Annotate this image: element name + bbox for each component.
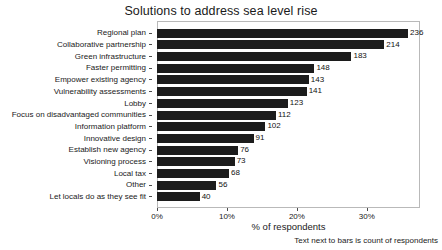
chart-root: Solutions to address sea level rise Regi… xyxy=(0,0,442,250)
bar-value-label: 183 xyxy=(353,50,366,62)
y-axis-tick-mark xyxy=(149,150,152,151)
x-axis-title: % of respondents xyxy=(157,221,420,232)
y-axis-label: Information platform xyxy=(75,121,146,133)
bar-value-label: 214 xyxy=(386,39,399,51)
y-axis-label: Vulnerability assessments xyxy=(54,86,146,98)
bar-row: 148 xyxy=(157,62,420,74)
y-axis-label: Regional plan xyxy=(97,27,146,39)
y-axis-tick-mark xyxy=(149,91,152,92)
bar-row: 76 xyxy=(157,144,420,156)
bar-value-label: 123 xyxy=(290,97,303,109)
bar-value-label: 143 xyxy=(311,74,324,86)
bar-value-label: 73 xyxy=(237,155,246,167)
bar xyxy=(157,192,200,201)
bar-row: 123 xyxy=(157,98,420,110)
x-axis-tick-label: 0% xyxy=(151,212,163,221)
bar xyxy=(157,29,408,38)
y-axis-label: Collaborative partnership xyxy=(57,39,146,51)
bars-container: 236214183148143141123112102917673685640 xyxy=(157,21,420,208)
bar-row: 40 xyxy=(157,191,420,203)
bar xyxy=(157,146,238,155)
y-axis-tick-mark xyxy=(149,44,152,45)
bar-row: 91 xyxy=(157,133,420,145)
y-axis-tick-mark xyxy=(149,138,152,139)
bar-row: 102 xyxy=(157,121,420,133)
bar xyxy=(157,122,265,131)
bar-value-label: 56 xyxy=(218,179,227,191)
bar-row: 183 xyxy=(157,51,420,63)
y-axis-label: Green infrastructure xyxy=(75,51,146,63)
bar-row: 236 xyxy=(157,27,420,39)
bar-value-label: 68 xyxy=(231,167,240,179)
y-axis-label: Local tax xyxy=(114,168,146,180)
y-axis-tick-mark xyxy=(149,33,152,34)
bar xyxy=(157,99,288,108)
bar-row: 68 xyxy=(157,168,420,180)
bar-row: 143 xyxy=(157,74,420,86)
bar-value-label: 102 xyxy=(267,120,280,132)
y-axis-label: Other xyxy=(126,179,146,191)
y-axis-tick-mark xyxy=(149,56,152,57)
bar-row: 214 xyxy=(157,39,420,51)
bar xyxy=(157,111,276,120)
y-axis-tick-mark xyxy=(149,173,152,174)
y-axis-label: Faster permitting xyxy=(86,62,146,74)
bar xyxy=(157,134,254,143)
bar xyxy=(157,40,384,49)
bar-value-label: 91 xyxy=(256,132,265,144)
bar xyxy=(157,169,229,178)
bar xyxy=(157,181,216,190)
y-axis-label: Focus on disadvantaged communities xyxy=(12,109,146,121)
bar xyxy=(157,75,309,84)
bar-value-label: 112 xyxy=(278,109,291,121)
bar-value-label: 148 xyxy=(316,62,329,74)
y-axis-tick-mark xyxy=(149,161,152,162)
y-axis-tick-mark xyxy=(149,103,152,104)
y-axis-tick-mark xyxy=(149,185,152,186)
y-axis-label: Empower existing agency xyxy=(55,74,146,86)
x-axis-tick-label: 30% xyxy=(359,212,375,221)
y-axis-tick-mark xyxy=(149,115,152,116)
bar-value-label: 141 xyxy=(309,85,322,97)
y-axis-tick-mark xyxy=(149,196,152,197)
y-axis-label: Let locals do as they see fit xyxy=(50,191,147,203)
bar-value-label: 40 xyxy=(202,191,211,203)
bar xyxy=(157,157,235,166)
bar xyxy=(157,87,307,96)
bar-value-label: 76 xyxy=(240,144,249,156)
chart-caption: Text next to bars is count of respondent… xyxy=(294,236,438,245)
y-axis-category-labels: Regional planCollaborative partnershipGr… xyxy=(0,21,153,208)
x-axis-tick-label: 20% xyxy=(289,212,305,221)
x-axis-tick-mark xyxy=(227,208,228,211)
x-axis-tick-mark xyxy=(297,208,298,211)
x-axis-tick-mark xyxy=(367,208,368,211)
bar-row: 56 xyxy=(157,179,420,191)
y-axis-tick-mark xyxy=(149,79,152,80)
bar-value-label: 236 xyxy=(410,27,423,39)
x-axis-tick-mark xyxy=(157,208,158,211)
bar xyxy=(157,64,314,73)
bar-row: 73 xyxy=(157,156,420,168)
y-axis-tick-mark xyxy=(149,126,152,127)
y-axis-tick-mark xyxy=(149,68,152,69)
y-axis-label: Lobby xyxy=(124,98,146,110)
chart-title: Solutions to address sea level rise xyxy=(0,4,442,18)
y-axis-label: Innovative design xyxy=(84,133,146,145)
bar-row: 141 xyxy=(157,86,420,98)
y-axis-label: Establish new agency xyxy=(69,144,146,156)
bar xyxy=(157,52,351,61)
y-axis-label: Visioning process xyxy=(83,156,146,168)
x-axis-tick-label: 10% xyxy=(219,212,235,221)
bar-row: 112 xyxy=(157,109,420,121)
